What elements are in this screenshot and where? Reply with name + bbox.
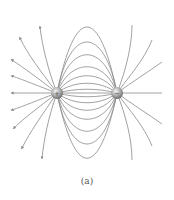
figure-caption: (a) <box>0 176 174 186</box>
svg-text:+: + <box>54 90 60 98</box>
svg-text:−: − <box>114 90 120 98</box>
negative-charge: − <box>111 87 123 99</box>
field-lines <box>12 25 162 160</box>
dipole-field-diagram: + − <box>0 0 174 200</box>
positive-charge: + <box>51 87 63 99</box>
